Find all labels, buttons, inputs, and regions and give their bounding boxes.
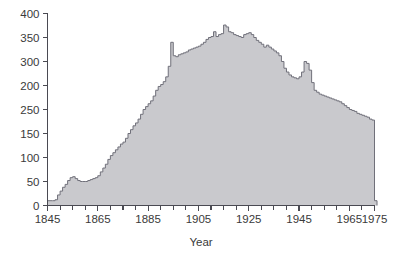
y-axis-tick-labels: 400350300200250150100500 xyxy=(20,8,39,212)
y-axis-tick-label: 50 xyxy=(27,176,40,188)
x-axis-tick-label: 1905 xyxy=(186,213,212,225)
y-axis-tick-label: 250 xyxy=(20,104,39,116)
x-axis-tick-label: 1945 xyxy=(286,213,312,225)
y-axis-tick-label: 200 xyxy=(20,80,39,92)
area-chart: 400350300200250150100500 184518651885190… xyxy=(0,0,399,261)
x-axis-tick-labels: 18451865188519051925194519651975 xyxy=(35,213,388,225)
x-axis-tick-label: 1925 xyxy=(236,213,262,225)
y-axis-tick-label: 400 xyxy=(20,8,39,20)
x-axis-tick-label: 1865 xyxy=(85,213,111,225)
x-axis-tick-label: 1965 xyxy=(337,213,363,225)
x-axis-title: Year xyxy=(189,236,212,248)
x-axis-tick-label: 1885 xyxy=(135,213,161,225)
area-series xyxy=(48,25,378,205)
y-axis-tick-label: 0 xyxy=(33,200,39,212)
y-axis-ticks xyxy=(43,14,48,206)
area-fill xyxy=(48,25,378,205)
y-axis-tick-label: 300 xyxy=(20,56,39,68)
y-axis-tick-label: 150 xyxy=(20,128,39,140)
x-axis-tick-label: 1975 xyxy=(362,213,388,225)
y-axis-tick-label: 350 xyxy=(20,32,39,44)
chart-container: 400350300200250150100500 184518651885190… xyxy=(0,0,399,261)
x-axis-tick-label: 1845 xyxy=(35,213,61,225)
y-axis-tick-label: 100 xyxy=(20,152,39,164)
x-axis-ticks xyxy=(48,206,375,211)
